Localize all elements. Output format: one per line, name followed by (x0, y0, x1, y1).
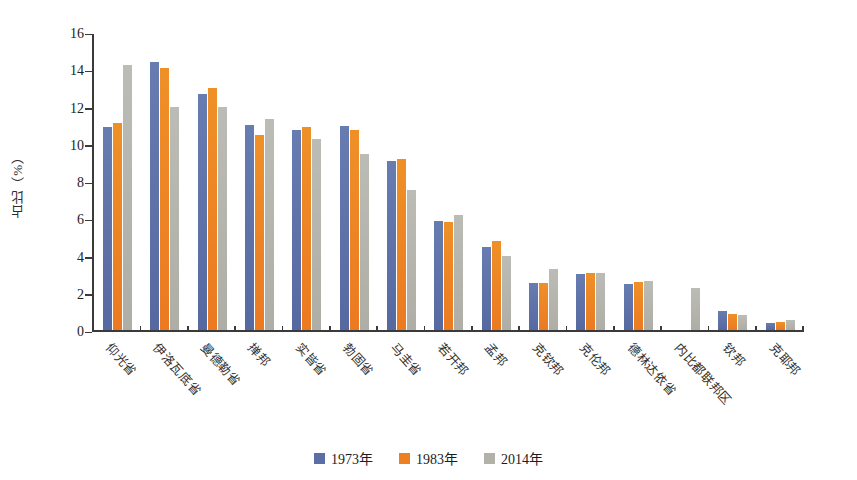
x-axis-tick (662, 326, 709, 333)
bar-group (283, 34, 330, 330)
legend-swatch (314, 453, 325, 464)
bar-0 (529, 283, 538, 330)
chart-legend: 1973年1983年2014年 (0, 448, 857, 468)
bar-1 (444, 222, 453, 330)
bar-1 (397, 159, 406, 330)
x-axis-label-cell: 克耶邦 (759, 336, 806, 432)
x-axis-label-cell: 德林达依省 (616, 336, 663, 432)
x-axis-tick (236, 326, 283, 333)
bar-2 (454, 215, 463, 330)
x-axis-label: 克耶邦 (766, 338, 806, 380)
x-axis-tick (615, 326, 662, 333)
bar-1 (539, 283, 548, 330)
bar-group (709, 34, 756, 330)
bar-group (425, 34, 472, 330)
bar-group (520, 34, 567, 330)
legend-item[interactable]: 1983年 (399, 448, 458, 468)
x-axis-tick (709, 326, 756, 333)
legend-item[interactable]: 2014年 (484, 448, 543, 468)
y-axis-tick-label: 12 (58, 101, 84, 117)
bar-2 (407, 190, 416, 330)
bar-0 (482, 247, 491, 330)
bar-0 (576, 274, 585, 330)
x-axis-label-cell: 勃固省 (331, 336, 378, 432)
y-axis-title: 占比（%） (8, 150, 32, 218)
x-axis-label-cell: 马圭省 (379, 336, 426, 432)
bar-2 (360, 154, 369, 330)
x-axis-category-labels: 仰光省伊洛瓦底省曼德勒省掸邦实皆省勃固省马圭省若开邦孟邦克钦邦克伦邦德林达依省内… (94, 336, 806, 432)
bar-2 (123, 65, 132, 330)
bar-2 (644, 281, 653, 330)
bar-group (189, 34, 236, 330)
y-axis-tick-label: 0 (58, 324, 84, 340)
x-axis-label: 勃固省 (339, 338, 379, 380)
y-axis-tick (85, 183, 92, 185)
bar-0 (103, 127, 112, 330)
y-axis-tick-label: 8 (58, 175, 84, 191)
bar-1 (492, 241, 501, 330)
x-axis-label-cell: 仰光省 (94, 336, 141, 432)
x-axis-label: 仰光省 (102, 338, 142, 380)
bar-1 (113, 123, 122, 330)
x-axis-tick (94, 326, 141, 333)
bar-2 (549, 269, 558, 330)
bar-group (615, 34, 662, 330)
bar-groups (94, 34, 804, 330)
bar-1 (302, 127, 311, 330)
y-axis-tick-label: 10 (58, 138, 84, 154)
x-axis-tick (378, 326, 425, 333)
bar-0 (387, 161, 396, 330)
y-axis-tick-labels: 0246810121416 (56, 34, 84, 332)
x-axis-tick (283, 326, 330, 333)
bar-group (236, 34, 283, 330)
x-axis-label: 钦邦 (719, 338, 751, 370)
bar-group (662, 34, 709, 330)
bar-2 (265, 119, 274, 330)
bar-0 (292, 130, 301, 330)
y-axis-tick (85, 34, 92, 36)
y-axis-tick (85, 220, 92, 222)
bar-0 (624, 284, 633, 330)
legend-label: 1973年 (331, 448, 373, 468)
y-axis-tick (85, 332, 92, 334)
legend-swatch (484, 453, 495, 464)
bar-group (378, 34, 425, 330)
bar-1 (350, 130, 359, 330)
x-axis-label-cell: 伊洛瓦底省 (141, 336, 188, 432)
x-axis-label-cell: 若开邦 (426, 336, 473, 432)
y-axis-tick-label: 2 (58, 287, 84, 303)
legend-item[interactable]: 1973年 (314, 448, 373, 468)
bar-group (141, 34, 188, 330)
bar-0 (198, 94, 207, 330)
x-axis-tick-marks (94, 326, 804, 333)
bar-2 (170, 107, 179, 330)
x-axis-label-cell: 曼德勒省 (189, 336, 236, 432)
bar-group (94, 34, 141, 330)
bar-2 (596, 273, 605, 330)
bar-group (757, 34, 804, 330)
y-axis-tick-label: 16 (58, 26, 84, 42)
bar-1 (586, 273, 595, 330)
x-axis-label: 掸邦 (244, 338, 276, 370)
x-axis-label: 孟邦 (481, 338, 513, 370)
x-axis-label: 马圭省 (386, 338, 426, 380)
y-axis-tick (85, 257, 92, 259)
y-axis-tick-label: 4 (58, 250, 84, 266)
bar-1 (255, 135, 264, 330)
y-axis-tick-label: 14 (58, 63, 84, 79)
bar-2 (691, 288, 700, 330)
legend-swatch (399, 453, 410, 464)
x-axis-label-cell: 掸邦 (236, 336, 283, 432)
x-axis-tick (425, 326, 472, 333)
x-axis-tick (473, 326, 520, 333)
x-axis-label-cell: 孟邦 (474, 336, 521, 432)
x-axis-tick (331, 326, 378, 333)
y-axis-tick (85, 71, 92, 73)
bar-2 (312, 139, 321, 330)
bar-chart: 占比（%） 0246810121416 仰光省伊洛瓦底省曼德勒省掸邦实皆省勃固省… (0, 0, 857, 480)
x-axis-label-cell: 内比都联邦区 (664, 336, 711, 432)
bar-0 (245, 125, 254, 330)
x-axis-label-cell: 克伦邦 (569, 336, 616, 432)
x-axis-tick (757, 326, 804, 333)
legend-label: 1983年 (416, 448, 458, 468)
